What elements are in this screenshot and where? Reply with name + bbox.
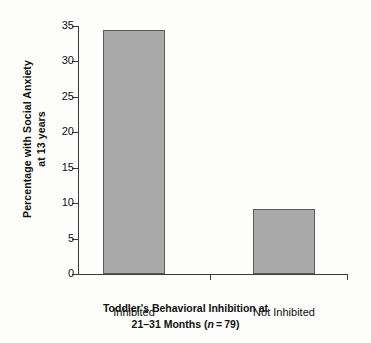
y-axis-line (78, 26, 79, 275)
x-axis-title-line2: 21–31 Months (n = 79) (0, 316, 371, 332)
y-tick-label-20: 20 (62, 125, 74, 137)
bar-not-inhibited[interactable] (253, 209, 315, 274)
x-axis-line (78, 274, 348, 275)
y-tick-label-10: 10 (62, 196, 74, 208)
y-axis-title-line1: Percentage with Social Anxiety (21, 60, 33, 218)
y-tick-label-5: 5 (68, 232, 74, 244)
x-tick-center (210, 274, 211, 280)
bar-chart-figure: Percentage with Social Anxiety at 13 yea… (0, 0, 371, 343)
y-tick-label-0: 0 (68, 267, 74, 279)
x-axis-title-line1: Toddler's Behavioral Inhibition at (103, 302, 268, 314)
y-axis-title-line2: at 13 years (34, 60, 48, 218)
x-tick-right-end (347, 274, 348, 280)
y-tick-label-25: 25 (62, 90, 74, 102)
x-axis-title-months: 21–31 Months ( (132, 318, 208, 330)
y-tick-label-30: 30 (62, 54, 74, 66)
bar-inhibited[interactable] (103, 30, 165, 274)
y-axis-title: Percentage with Social Anxiety at 13 yea… (14, 0, 54, 278)
y-tick-label-15: 15 (62, 161, 74, 173)
sample-size-value: = 79) (214, 318, 240, 330)
plot-area: 0 5 10 15 20 25 30 35 (78, 26, 348, 274)
x-axis-title: Toddler's Behavioral Inhibition at 21–31… (0, 300, 371, 332)
y-tick-label-35: 35 (62, 19, 74, 31)
